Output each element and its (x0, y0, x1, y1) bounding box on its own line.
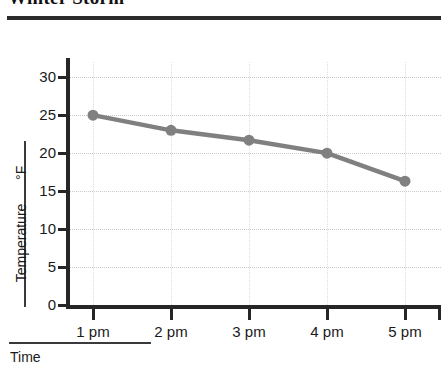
series-line (93, 115, 405, 181)
x-tick-label-0: 1 pm (53, 323, 133, 340)
data-point-1 (166, 125, 177, 136)
y-tick-label-30: 30 (10, 68, 56, 85)
y-tick-30 (58, 76, 67, 79)
x-tick-label-3: 4 pm (287, 323, 367, 340)
x-tick-2 (248, 309, 251, 320)
data-point-3 (322, 148, 333, 159)
temperature-series (70, 62, 441, 305)
y-tick-label-25: 25 (10, 106, 56, 123)
x-tick-1 (170, 309, 173, 320)
x-tick-label-1: 2 pm (131, 323, 211, 340)
y-axis-title-text: Temperature (13, 204, 29, 283)
y-tick-5 (58, 266, 67, 269)
y-tick-15 (58, 190, 67, 193)
y-tick-0 (58, 304, 67, 307)
x-axis-line (66, 305, 441, 309)
header: Winter Storm (0, 0, 448, 24)
series-markers (88, 110, 411, 187)
x-axis-title: Time (10, 349, 41, 365)
y-tick-20 (58, 152, 67, 155)
temperature-line-chart: 051015202530 1 pm2 pm3 pm4 pm5 pm Temper… (0, 24, 448, 373)
data-point-0 (88, 110, 99, 121)
x-tick-0 (92, 309, 95, 320)
x-tick-label-2: 3 pm (209, 323, 289, 340)
x-tick-4 (404, 309, 407, 320)
y-tick-10 (58, 228, 67, 231)
y-axis-line (66, 58, 70, 309)
title-divider (7, 16, 441, 20)
y-axis-title: Temperature °F (8, 144, 34, 304)
x-tick-end (438, 309, 441, 320)
x-tick-label-4: 5 pm (365, 323, 445, 340)
page-title: Winter Storm (8, 0, 124, 9)
plot-area (70, 62, 441, 305)
y-tick-25 (58, 114, 67, 117)
y-axis-unit-text: °F (13, 166, 29, 180)
data-point-2 (244, 135, 255, 146)
x-tick-3 (326, 309, 329, 320)
data-point-4 (400, 176, 411, 187)
x-axis-title-rule (9, 342, 151, 344)
